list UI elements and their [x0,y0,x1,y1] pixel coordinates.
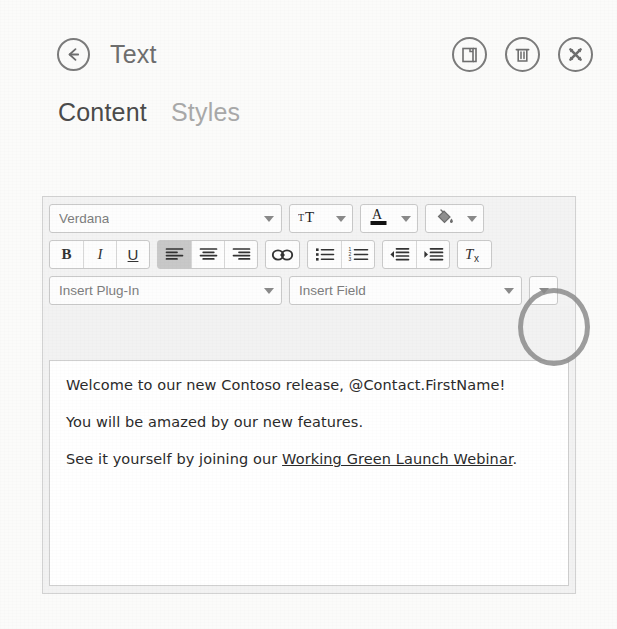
insert-field-dropdown[interactable]: Insert Field [289,276,522,305]
paragraph-webinar: See it yourself by joining our Working G… [66,449,552,470]
chevron-down-icon [264,288,274,294]
chevron-down-icon [504,288,514,294]
font-color-dropdown[interactable]: A [360,204,418,233]
paragraph-webinar-prefix: See it yourself by joining our [66,451,282,467]
font-size-icon: T T [298,208,324,229]
bold-button[interactable]: B [50,241,83,268]
chevron-down-icon [539,288,549,294]
decrease-indent-button[interactable] [383,241,416,268]
toolbar-row-insert: Insert Plug-In Insert Field [49,275,569,306]
chevron-down-icon [401,216,411,222]
svg-text:x: x [474,253,479,264]
more-options-dropdown[interactable] [529,276,558,305]
toolbar-row-font: Verdana T T A [49,203,569,234]
clear-formatting-icon: T x [464,245,486,264]
decrease-indent-icon [389,247,410,262]
bold-icon: B [61,246,71,263]
svg-text:3: 3 [348,256,351,262]
tab-content[interactable]: Content [58,98,147,127]
numbered-list-button[interactable]: 1 2 3 [341,241,374,268]
paragraph-features: You will be amazed by our new features. [66,412,552,433]
alignment-group [157,240,258,269]
highlight-color-dropdown[interactable] [425,204,484,233]
bullet-list-icon [315,247,335,262]
editor-content-area[interactable]: Welcome to our new Contoso release, @Con… [49,360,569,586]
clear-format-group: T x [457,240,492,269]
indent-group [382,240,450,269]
paragraph-welcome: Welcome to our new Contoso release, @Con… [66,375,552,396]
clear-formatting-button[interactable]: T x [458,241,491,268]
svg-text:T: T [305,209,314,225]
bullet-list-button[interactable] [308,241,341,268]
copy-page-icon [460,45,479,64]
svg-text:T: T [298,212,304,223]
link-group [265,240,300,269]
back-arrow-icon [64,45,83,64]
increase-indent-icon [423,247,444,262]
italic-button[interactable]: I [83,241,116,268]
duplicate-button[interactable] [452,37,487,72]
increase-indent-button[interactable] [416,241,449,268]
chevron-down-icon [467,216,477,222]
tab-styles[interactable]: Styles [171,98,240,127]
insert-link-button[interactable] [266,241,299,268]
underline-icon: U [128,246,139,263]
page-header: Text [0,0,617,90]
align-right-button[interactable] [224,241,257,268]
editor-toolbar: Verdana T T A [43,197,575,306]
tab-bar: Content Styles [58,98,240,127]
close-x-icon [566,45,585,64]
link-chain-icon [271,248,294,262]
align-center-icon [199,247,218,262]
chevron-down-icon [264,216,274,222]
insert-plugin-dropdown[interactable]: Insert Plug-In [49,276,282,305]
text-style-group: B I U [49,240,150,269]
back-button[interactable] [57,38,90,71]
align-center-button[interactable] [191,241,224,268]
toolbar-row-format: B I U [49,239,569,270]
insert-field-value: Insert Field [299,283,366,298]
rich-text-editor: Verdana T T A [42,196,576,594]
underline-button[interactable]: U [116,241,149,268]
chevron-down-icon [336,216,346,222]
font-family-value: Verdana [59,211,109,226]
svg-text:A: A [372,207,383,222]
header-actions [452,37,593,72]
page-title: Text [110,38,157,71]
delete-button[interactable] [505,37,540,72]
numbered-list-icon: 1 2 3 [348,247,369,262]
align-left-button[interactable] [158,241,191,268]
insert-plugin-value: Insert Plug-In [59,283,139,298]
font-size-dropdown[interactable]: T T [289,204,353,233]
trash-icon [513,45,532,64]
list-group: 1 2 3 [307,240,375,269]
more-options-button[interactable] [530,277,557,304]
paint-bucket-icon [434,207,455,230]
webinar-link[interactable]: Working Green Launch Webinar [282,451,513,467]
align-right-icon [232,247,251,262]
paragraph-webinar-suffix: . [513,451,518,467]
font-family-dropdown[interactable]: Verdana [49,204,282,233]
align-left-icon [165,247,184,262]
font-color-icon: A [369,206,389,231]
close-button[interactable] [558,37,593,72]
italic-icon: I [98,246,103,263]
